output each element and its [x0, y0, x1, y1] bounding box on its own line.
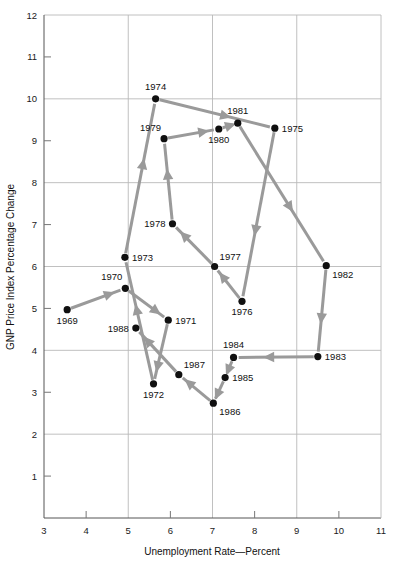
path-segment-1982-to-1983 — [318, 270, 326, 352]
chart-canvas: 12345678910111234567891011 1969197019711… — [0, 0, 402, 575]
path-segment-1983-to-1984 — [239, 357, 314, 358]
point-label-1969: 1969 — [57, 315, 78, 326]
point-marker-1988 — [132, 325, 139, 332]
data-point-1972: 1972 — [143, 380, 164, 400]
point-label-1979: 1979 — [140, 122, 161, 133]
point-label-1973: 1973 — [132, 252, 153, 263]
data-point-1983: 1983 — [314, 351, 346, 362]
arrow-head-1980-to-1981 — [224, 122, 236, 132]
x-tick-label-4: 4 — [83, 525, 88, 536]
y-axis-title: GNP Price Index Percentage Change — [5, 184, 16, 350]
y-tick-label-10: 10 — [26, 93, 37, 104]
point-label-1978: 1978 — [144, 218, 165, 229]
point-label-1988: 1988 — [108, 323, 129, 334]
x-tick-label-3: 3 — [41, 525, 46, 536]
y-tick-label-5: 5 — [32, 303, 37, 314]
phillips-curve-chart: 12345678910111234567891011 1969197019711… — [0, 0, 402, 575]
point-label-1980: 1980 — [208, 134, 229, 145]
data-point-1977: 1977 — [211, 251, 241, 271]
point-marker-1971 — [165, 317, 172, 324]
point-marker-1985 — [222, 374, 229, 381]
y-tick-label-9: 9 — [32, 135, 37, 146]
point-label-1983: 1983 — [325, 351, 346, 362]
point-label-1971: 1971 — [175, 315, 196, 326]
path-segment-1972-to-1973 — [126, 262, 153, 380]
data-point-1988: 1988 — [108, 323, 140, 334]
y-tick-label-2: 2 — [32, 429, 37, 440]
arrow-head-1983-to-1984 — [263, 352, 274, 362]
point-marker-1970 — [122, 285, 129, 292]
x-tick-label-6: 6 — [168, 525, 173, 536]
data-point-1979: 1979 — [140, 122, 168, 143]
arrow-head-1975-to-1976 — [251, 224, 261, 236]
data-point-1978: 1978 — [144, 218, 176, 229]
point-marker-1984 — [230, 354, 237, 361]
path-arrow-layer — [71, 100, 327, 401]
point-marker-1978 — [169, 220, 176, 227]
y-tick-label-11: 11 — [27, 51, 37, 62]
x-tick-label-10: 10 — [334, 525, 345, 536]
point-marker-1981 — [234, 120, 241, 127]
x-tick-label-9: 9 — [294, 525, 299, 536]
x-tick-label-11: 11 — [376, 525, 386, 536]
data-point-1969: 1969 — [57, 306, 78, 326]
point-marker-1986 — [210, 400, 217, 407]
data-point-1976: 1976 — [231, 298, 252, 318]
point-marker-1973 — [121, 254, 128, 261]
point-marker-1975 — [271, 125, 278, 132]
arrow-head-1969-to-1970 — [103, 291, 115, 301]
point-label-1970: 1970 — [101, 271, 122, 282]
x-tick-label-7: 7 — [210, 525, 215, 536]
point-label-1981: 1981 — [227, 105, 248, 116]
x-tick-label-5: 5 — [126, 525, 131, 536]
point-marker-1972 — [150, 380, 157, 387]
data-point-1987: 1987 — [175, 359, 205, 379]
point-marker-1983 — [314, 353, 321, 360]
point-marker-1976 — [238, 298, 245, 305]
point-marker-1980 — [215, 125, 222, 132]
y-tick-label-6: 6 — [32, 261, 37, 272]
data-point-1986: 1986 — [210, 400, 241, 418]
point-label-1977: 1977 — [220, 251, 241, 262]
y-tick-label-1: 1 — [32, 471, 37, 482]
point-label-1982: 1982 — [332, 269, 353, 280]
point-marker-1982 — [323, 262, 330, 269]
data-point-1975: 1975 — [271, 123, 303, 134]
point-label-1987: 1987 — [184, 359, 205, 370]
y-tick-label-12: 12 — [26, 10, 37, 21]
data-point-1973: 1973 — [121, 252, 153, 263]
point-label-1976: 1976 — [231, 306, 252, 317]
data-point-1971: 1971 — [165, 315, 197, 326]
point-marker-1974 — [152, 95, 159, 102]
y-tick-label-7: 7 — [32, 219, 37, 230]
point-label-1972: 1972 — [143, 389, 164, 400]
point-marker-1979 — [160, 135, 167, 142]
point-marker-1977 — [211, 263, 218, 270]
y-tick-label-3: 3 — [32, 387, 37, 398]
path-segment-1978-to-1979 — [165, 144, 173, 220]
x-axis-title: Unemployment Rate—Percent — [144, 546, 280, 557]
point-label-1986: 1986 — [219, 406, 240, 417]
point-label-1985: 1985 — [232, 372, 253, 383]
point-marker-1969 — [64, 306, 71, 313]
y-tick-label-8: 8 — [32, 177, 37, 188]
y-tick-label-4: 4 — [32, 345, 37, 356]
arrow-head-1973-to-1974 — [137, 158, 147, 170]
path-segment-1974-to-1975 — [160, 100, 270, 127]
data-point-1970: 1970 — [101, 271, 129, 292]
point-label-1974: 1974 — [145, 81, 166, 92]
x-tick-label-8: 8 — [252, 525, 257, 536]
point-label-1975: 1975 — [282, 123, 303, 134]
point-marker-1987 — [175, 371, 182, 378]
point-label-1984: 1984 — [223, 339, 244, 350]
